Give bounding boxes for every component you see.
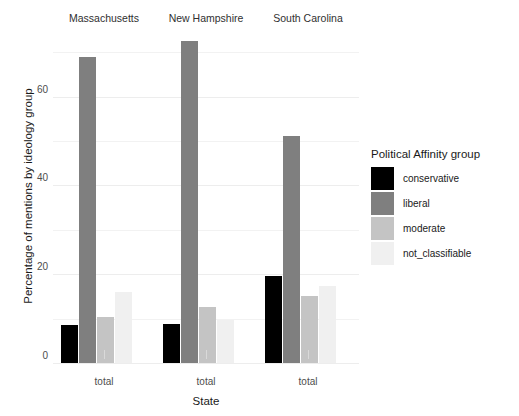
facet-panel-south-carolina: South Carolina total	[257, 8, 359, 383]
bar-massachusetts-not-classifiable	[115, 292, 132, 363]
bar-south-carolina-moderate	[301, 296, 318, 363]
gridline-0	[257, 363, 359, 364]
x-tick-mark-2	[308, 350, 309, 359]
y-tick-label-0: 0	[26, 350, 48, 361]
panel-plot-area-1: total	[155, 29, 257, 376]
legend-item-liberal: liberal	[371, 191, 516, 216]
bar-new-hampshire-liberal	[181, 41, 198, 363]
bar-south-carolina-conservative	[265, 276, 282, 363]
x-tick-mark-0	[104, 350, 105, 359]
legend-label-not-classifiable: not_classifiable	[403, 248, 471, 259]
facet-panel-new-hampshire: New Hampshire total	[155, 8, 257, 383]
bar-massachusetts-liberal	[79, 57, 96, 363]
legend-label-moderate: moderate	[403, 223, 445, 234]
facet-strip-label-1: New Hampshire	[155, 8, 257, 29]
x-tick-label-1: total	[155, 376, 257, 387]
bar-south-carolina-liberal	[283, 136, 300, 363]
bar-chart: Percentage of mentions by ideology group…	[0, 0, 519, 416]
legend-swatch-moderate	[371, 217, 394, 240]
y-tick-label-20: 20	[26, 261, 48, 272]
panel-plot-area-0: total	[53, 29, 155, 376]
gridline-0	[53, 363, 155, 364]
bar-massachusetts-moderate	[97, 317, 114, 363]
legend-item-conservative: conservative	[371, 166, 516, 191]
gridline-0	[155, 363, 257, 364]
bar-new-hampshire-not-classifiable	[217, 320, 234, 363]
legend-swatch-not-classifiable	[371, 242, 394, 265]
bar-massachusetts-conservative	[61, 325, 78, 363]
legend-item-moderate: moderate	[371, 216, 516, 241]
bar-group-new-hampshire: total	[155, 29, 257, 363]
bar-group-south-carolina: total	[257, 29, 359, 363]
facet-panels: Massachusetts total	[53, 8, 359, 383]
bar-group-massachusetts: total	[53, 29, 155, 363]
facet-panel-massachusetts: Massachusetts total	[53, 8, 155, 383]
x-tick-mark-1	[206, 350, 207, 359]
x-tick-label-0: total	[53, 376, 155, 387]
facet-strip-label-2: South Carolina	[257, 8, 359, 29]
x-tick-label-2: total	[257, 376, 359, 387]
legend-swatch-liberal	[371, 192, 394, 215]
bar-new-hampshire-moderate	[199, 307, 216, 363]
y-tick-label-40: 40	[26, 172, 48, 183]
legend-label-conservative: conservative	[403, 173, 459, 184]
legend-swatch-conservative	[371, 167, 394, 190]
bar-new-hampshire-conservative	[163, 324, 180, 363]
legend-label-liberal: liberal	[403, 198, 430, 209]
panel-plot-area-2: total	[257, 29, 359, 376]
y-axis-ticks: 0 20 40 60	[22, 0, 48, 416]
bar-south-carolina-not-classifiable	[319, 286, 336, 363]
legend: Political Affinity group conservative li…	[371, 148, 516, 266]
legend-item-not-classifiable: not_classifiable	[371, 241, 516, 266]
facet-strip-label-0: Massachusetts	[53, 8, 155, 29]
x-axis-title: State	[53, 395, 359, 407]
legend-title: Political Affinity group	[371, 148, 516, 160]
y-tick-label-60: 60	[26, 84, 48, 95]
